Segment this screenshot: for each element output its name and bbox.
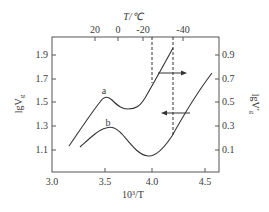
y-left-ticks	[52, 55, 56, 150]
top-tick-label: 20	[90, 24, 100, 35]
y-left-title: lgVg	[13, 94, 26, 113]
arrow-left	[161, 111, 190, 116]
curve-b-label: b	[106, 117, 111, 128]
y-left-tick-label: 1.3	[36, 120, 49, 131]
x-tick-label: 3.5	[99, 176, 112, 187]
plot-frame	[52, 37, 219, 172]
top-tick-label: -40	[176, 24, 189, 35]
y-right-tick-label: 0.5	[222, 96, 235, 107]
chart: 3.0 3.5 4.0 4.5 10³/T 20 0 -20 -40 T/℃ 1…	[0, 0, 269, 212]
x-axis-ticks	[105, 168, 205, 172]
y-right-ticks	[215, 55, 219, 150]
top-tick-label: 0	[116, 24, 121, 35]
y-left-tick-label: 1.5	[36, 96, 49, 107]
y-right-tick-label: 0.1	[222, 144, 235, 155]
x-axis-title: 10³/T	[122, 189, 144, 200]
y-left-tick-label: 1.1	[36, 144, 49, 155]
curve-a	[69, 48, 173, 146]
top-tick-label: -20	[136, 24, 149, 35]
curve-a-label: a	[102, 85, 107, 96]
y-right-title: lgV′g	[248, 94, 261, 115]
x-tick-label: 3.0	[46, 176, 59, 187]
curve-b	[80, 73, 212, 156]
top-axis-ticks	[95, 37, 183, 41]
y-left-tick-labels: 1.9 1.7 1.5 1.3 1.1	[36, 49, 49, 155]
y-right-title-main: lgV′	[250, 94, 261, 111]
x-tick-label: 4.0	[146, 176, 159, 187]
y-right-tick-label: 0.3	[222, 120, 235, 131]
svg-text:lgVg: lgVg	[13, 94, 26, 113]
y-left-tick-label: 1.7	[36, 73, 49, 84]
y-left-title-sub: g	[18, 94, 26, 98]
y-right-tick-labels: 0.9 0.7 0.5 0.3 0.1	[222, 49, 235, 155]
x-axis-tick-labels: 3.0 3.5 4.0 4.5	[46, 176, 212, 187]
y-left-tick-label: 1.9	[36, 49, 49, 60]
top-axis-tick-labels: 20 0 -20 -40	[90, 24, 190, 35]
y-right-title-sub: g	[248, 111, 256, 115]
svg-text:lgV′g: lgV′g	[248, 94, 261, 115]
x-tick-label: 4.5	[199, 176, 212, 187]
y-left-title-main: lgV	[13, 97, 24, 113]
y-right-tick-label: 0.9	[222, 49, 235, 60]
y-right-tick-label: 0.7	[222, 73, 235, 84]
top-axis-title: T/℃	[123, 11, 144, 22]
